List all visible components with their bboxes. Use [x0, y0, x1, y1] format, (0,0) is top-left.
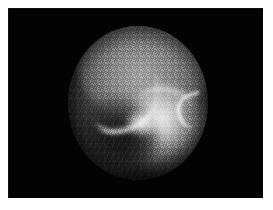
circular-field-of-view — [68, 26, 208, 180]
radiograph-plate — [8, 8, 263, 198]
vignette-overlay — [68, 26, 208, 180]
page-canvas — [0, 0, 273, 210]
